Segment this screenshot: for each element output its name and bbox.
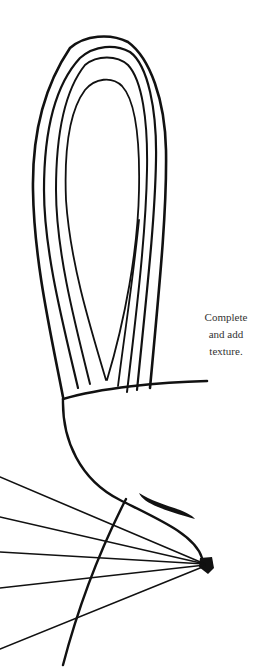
caption-line-1: Complete [178, 309, 271, 326]
caption-line-3: texture. [178, 343, 271, 360]
eye-mark [139, 493, 195, 519]
body-baseline [63, 381, 207, 399]
neck-line [63, 499, 126, 665]
radiating-lines [0, 477, 205, 649]
instruction-caption: Complete and add texture. [178, 309, 271, 360]
tail-feather-loops [33, 36, 166, 397]
caption-line-2: and add [178, 326, 271, 343]
head-curve [63, 399, 202, 558]
